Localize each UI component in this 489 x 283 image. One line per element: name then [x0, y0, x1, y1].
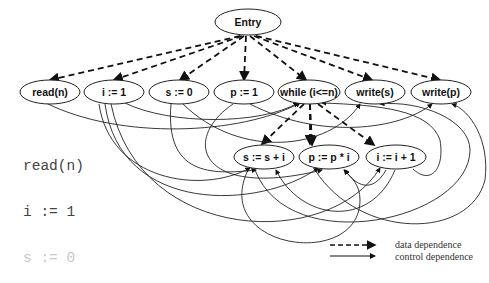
node-write-s: write(s): [345, 80, 405, 104]
code-line-sliced-out: s := 0: [23, 251, 127, 266]
node-read-n-label: read(n): [32, 86, 68, 98]
entry-dashed-edges: [50, 36, 440, 80]
code-line: i := 1: [23, 205, 127, 220]
code-line: read(n): [23, 159, 127, 174]
node-read-n: read(n): [20, 80, 80, 104]
node-i-update-label: i := i + 1: [376, 151, 415, 163]
legend-dashed-label: data dependence: [395, 239, 462, 250]
node-p-update-label: p := p * i: [308, 151, 349, 163]
node-p-update: p := p * i: [299, 145, 359, 169]
code-listing: read(n) i := 1 s := 0 p := 1 while (i<=n…: [23, 128, 127, 283]
legend-solid-label: control dependence: [395, 251, 474, 262]
node-s-update: s := s + i: [234, 145, 294, 169]
while-dashed-edges: [262, 104, 374, 145]
node-p-init-label: p := 1: [230, 86, 258, 98]
node-entry: Entry: [215, 9, 281, 35]
node-p-init: p := 1: [214, 80, 274, 104]
legend: data dependence control dependence: [330, 239, 474, 262]
node-i-init-label: i := 1: [102, 86, 126, 98]
node-write-p: write(p): [411, 80, 471, 104]
node-write-s-label: write(s): [355, 86, 393, 98]
node-write-p-label: write(p): [421, 86, 460, 98]
node-i-init: i := 1: [84, 80, 144, 104]
node-while: while (i<=n): [278, 80, 340, 104]
node-s-init: s := 0: [149, 80, 209, 104]
node-s-init-label: s := 0: [165, 86, 192, 98]
node-s-update-label: s := s + i: [243, 151, 285, 163]
node-entry-label: Entry: [235, 16, 262, 28]
node-i-update: i := i + 1: [366, 145, 426, 169]
node-while-label: while (i<=n): [279, 86, 338, 98]
